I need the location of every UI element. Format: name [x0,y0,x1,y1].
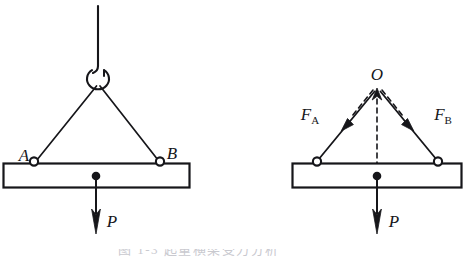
label-fa: FA [300,105,319,126]
label-o: O [371,65,383,84]
label-p-left: P [106,212,117,231]
right-diagram-group: O FA FB P [293,65,462,234]
label-fb-base: F [433,105,445,124]
sling-leg-right [100,86,158,160]
label-p-right: P [388,212,399,231]
eyelet-a-right-icon [313,157,321,165]
dashed-guide-right [382,90,403,116]
eyelet-a-icon [30,157,38,165]
eyelet-b-right-icon [434,157,442,165]
figure-caption: 图 1-3 起重横梁受力分析 [118,249,280,257]
eyelet-b-icon [156,157,164,165]
label-fb: FB [433,105,452,126]
dashed-guide-left [352,90,373,116]
left-diagram-group: A B P [4,6,190,234]
sling-leg-left [37,86,97,161]
label-a: A [18,146,30,165]
label-fb-sub: B [445,114,452,126]
label-fa-base: F [300,105,312,124]
figure-root: A B P [0,0,473,257]
label-fa-sub: A [311,114,319,126]
label-b: B [167,144,178,163]
hook-ring-icon [87,70,109,89]
caption-strip: 图 1-3 起重横梁受力分析 [0,249,473,257]
physics-figure: A B P [0,0,473,257]
hoist-cable [93,6,98,73]
